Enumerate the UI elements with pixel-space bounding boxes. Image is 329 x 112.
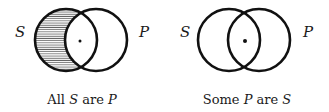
existence-dot	[79, 40, 82, 43]
caption: Some P are S	[165, 92, 329, 107]
caption: All S are P	[0, 92, 164, 107]
label-s: S	[15, 23, 25, 41]
venn-circles	[0, 0, 164, 90]
label-p: P	[139, 23, 149, 41]
existence-dot	[243, 39, 247, 43]
label-s: S	[180, 23, 190, 41]
venn-diagram-some-p-are-s: S P Some P are S	[165, 0, 329, 112]
venn-circles	[165, 0, 329, 90]
label-p: P	[303, 23, 313, 41]
venn-diagram-all-s-are-p: S P All S are P	[0, 0, 164, 112]
